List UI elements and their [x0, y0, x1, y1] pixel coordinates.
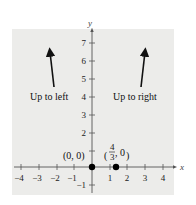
- left-paren: (: [104, 150, 108, 162]
- up-right-label: Up to right: [113, 91, 157, 102]
- x-tick-labels: −4 −3 −2 −1 1 2 3 4: [14, 173, 166, 183]
- x-tick-label: −3: [32, 173, 42, 183]
- y-tick-label: 3: [82, 110, 87, 120]
- x-tick-label: −2: [50, 173, 60, 183]
- point-origin: [89, 164, 95, 170]
- y-tick-label: 7: [82, 38, 87, 48]
- x-tick-label: 3: [143, 173, 148, 183]
- y-tick-label: 2: [82, 128, 87, 138]
- origin-point-label: (0, 0): [63, 150, 85, 162]
- x-tick-label: 1: [108, 173, 113, 183]
- four-thirds-point-label: ( 4 3 , 0 ): [104, 142, 129, 162]
- x-tick-label: 4: [161, 173, 166, 183]
- point-four-thirds: [113, 164, 119, 170]
- graph: x y −4 −3 −2 −1 1 2 3 4 7 6 5 4 3: [0, 0, 196, 205]
- y-tick-label: 6: [82, 56, 87, 66]
- y-tick-label: 5: [82, 74, 87, 84]
- right-paren: ): [126, 150, 129, 162]
- y-tick-label: −1: [76, 180, 86, 190]
- x-tick-label: −1: [67, 173, 77, 183]
- frac-point-tail: , 0: [115, 147, 125, 158]
- y-axis-label: y: [87, 18, 92, 28]
- x-tick-label: 2: [125, 173, 130, 183]
- y-tick-label: 4: [82, 92, 87, 102]
- up-left-arrow-icon: [50, 52, 54, 87]
- up-right-arrow-icon: [141, 52, 145, 87]
- up-left-label: Up to left: [30, 91, 69, 102]
- x-axis-label: x: [179, 162, 184, 172]
- x-tick-label: −4: [14, 173, 24, 183]
